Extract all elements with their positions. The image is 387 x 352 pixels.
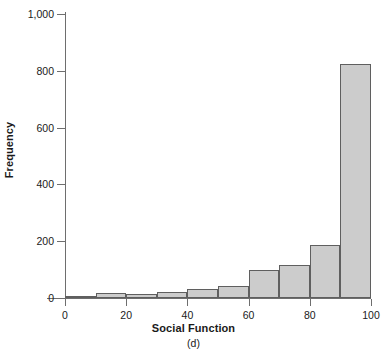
histogram-figure: Frequency 02004006008001,000 02040608010… — [0, 0, 387, 352]
histogram-bar — [187, 289, 218, 298]
y-axis-label: Frequency — [0, 0, 18, 300]
histogram-bar — [340, 64, 371, 298]
x-axis-tick — [371, 299, 372, 306]
y-axis-tick — [57, 241, 65, 242]
histogram-bar — [126, 294, 157, 298]
x-axis-tick — [187, 299, 188, 306]
y-axis-tick — [57, 184, 65, 185]
y-axis-tick — [57, 71, 65, 72]
y-axis-tick-label: 600 — [36, 122, 54, 134]
histogram-bar — [279, 265, 310, 299]
histogram-bar — [96, 293, 127, 298]
x-axis-tick-label: 80 — [304, 309, 316, 321]
y-axis-tick-label: 0 — [48, 292, 54, 304]
y-axis-tick-label: 200 — [36, 235, 54, 247]
histogram-bar — [157, 292, 188, 298]
y-axis-label-text: Frequency — [3, 122, 15, 179]
x-axis-tick — [126, 299, 127, 306]
y-axis-tick — [57, 128, 65, 129]
x-axis-tick — [65, 299, 66, 306]
histogram-bar — [218, 286, 249, 298]
histogram-bar — [65, 296, 96, 298]
x-axis-line — [47, 298, 371, 299]
x-axis-tick-label: 40 — [182, 309, 194, 321]
y-axis-tick-label: 1,000 — [28, 8, 54, 20]
histogram-bar — [249, 270, 280, 298]
y-axis-tick — [57, 298, 65, 299]
x-axis-label: Social Function — [0, 322, 387, 334]
y-axis-tick-label: 800 — [36, 65, 54, 77]
x-axis-tick-label: 20 — [120, 309, 132, 321]
y-axis-tick — [57, 14, 65, 15]
y-axis-tick-label: 400 — [36, 178, 54, 190]
x-axis-tick — [249, 299, 250, 306]
histogram-bar — [310, 245, 341, 298]
x-axis-tick-label: 100 — [362, 309, 380, 321]
x-axis-tick — [310, 299, 311, 306]
x-axis-tick-label: 60 — [243, 309, 255, 321]
panel-caption: (d) — [0, 337, 387, 349]
x-axis-tick-label: 0 — [62, 309, 68, 321]
plot-area — [65, 14, 371, 298]
